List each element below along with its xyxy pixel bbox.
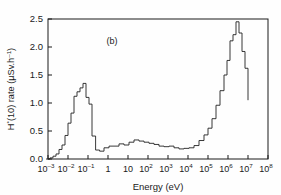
y-tick-label: 0.5 — [30, 125, 43, 136]
x-tick-label: 10–1 — [78, 162, 95, 174]
x-tick-label: 103 — [159, 162, 173, 174]
x-tick-label: 10 — [123, 164, 133, 174]
x-tick-label: 107 — [239, 162, 253, 174]
x-tick-label: 106 — [219, 162, 233, 174]
x-tick-label: 10–3 — [38, 162, 55, 174]
plot-frame — [48, 19, 268, 159]
y-tick-label: 2.0 — [30, 41, 43, 52]
spectrum-step-curve — [46, 22, 248, 159]
x-tick-label: 108 — [259, 162, 273, 174]
x-tick-label: 104 — [179, 162, 193, 174]
y-tick-label: 0.0 — [30, 153, 43, 164]
panel-label: (b) — [107, 36, 118, 46]
x-tick-label: 10–2 — [58, 162, 75, 174]
y-tick-label: 1.5 — [30, 69, 43, 80]
y-axis-tick-labels: 0.00.51.01.52.02.5 — [30, 13, 43, 164]
y-axis-title: H*(10) rate (µSv.h–1) — [5, 48, 16, 130]
x-axis-tick-labels: 10–310–210–1110102103104105106107108 — [38, 162, 274, 174]
y-axis-ticks — [48, 19, 52, 159]
y-tick-label: 2.5 — [30, 13, 43, 24]
x-tick-label: 105 — [199, 162, 213, 174]
x-tick-label: 102 — [139, 162, 153, 174]
figure-panel-b: 0.00.51.01.52.02.5 10–310–210–1110102103… — [0, 0, 281, 195]
x-tick-label: 1 — [105, 164, 110, 174]
x-axis-ticks — [48, 155, 268, 159]
x-axis-title: Energy (eV) — [133, 181, 184, 192]
y-axis-title-text: H*(10) rate (µSv.h–1) — [5, 48, 16, 130]
y-tick-label: 1.0 — [30, 97, 43, 108]
neutron-dose-rate-spectrum-chart: 0.00.51.01.52.02.5 10–310–210–1110102103… — [0, 0, 281, 195]
